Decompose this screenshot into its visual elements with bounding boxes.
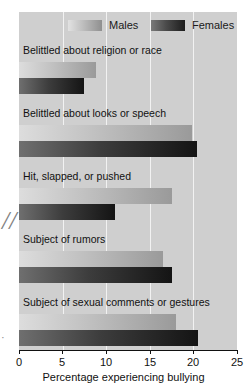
legend-swatch-males [68,20,102,31]
category-label: Belittled about religion or race [23,44,162,56]
bar-females[interactable] [19,141,197,157]
bar-males[interactable] [19,188,172,204]
legend-item-females[interactable]: Females [151,19,234,32]
x-ticklabel-0: 0 [16,356,22,368]
bar-females[interactable] [19,330,198,346]
legend: Males Females [19,12,237,38]
category-label: Hit, slapped, or pushed [23,170,131,182]
category-label: Subject of rumors [23,233,105,245]
x-axis-label: Percentage experiencing bullying [0,371,247,384]
bar-males[interactable] [19,314,176,330]
x-ticklabel-10: 10 [100,356,112,368]
margin-handwriting-mark-small: · [1,330,13,344]
category-label: Subject of sexual comments or gestures [23,296,210,308]
margin-handwriting-mark: // [2,198,18,244]
bar-females[interactable] [19,78,84,94]
legend-item-males[interactable]: Males [68,19,138,32]
legend-swatch-females [151,20,185,31]
bar-group-looks-or-speech: Belittled about looks or speech [19,107,237,169]
x-tick-10 [106,350,107,354]
bar-chart-figure: Males Females Belittled about religion o… [0,0,247,389]
x-tick-5 [62,350,63,354]
x-ticklabel-5: 5 [59,356,65,368]
bar-group-hit-slapped-pushed: Hit, slapped, or pushed [19,170,237,232]
bar-males[interactable] [19,125,192,141]
x-tick-25 [237,350,238,354]
bar-group-rumors: Subject of rumors [19,233,237,295]
plot-area: Males Females Belittled about religion o… [19,12,237,350]
plot-panel: Males Females Belittled about religion o… [19,12,237,350]
x-tick-20 [193,350,194,354]
bar-group-sexual-comments-or-gestures: Subject of sexual comments or gestures [19,296,237,350]
bar-group-religion-or-race: Belittled about religion or race [19,44,237,106]
x-tick-15 [150,350,151,354]
bar-males[interactable] [19,251,163,267]
x-ticklabel-20: 20 [187,356,199,368]
legend-label-females: Females [192,20,234,31]
bar-females[interactable] [19,267,172,283]
x-axis-line [19,350,237,351]
bar-males[interactable] [19,62,96,78]
x-ticklabel-15: 15 [144,356,156,368]
category-label: Belittled about looks or speech [23,107,166,119]
legend-label-males: Males [109,20,138,31]
bar-females[interactable] [19,204,115,220]
x-ticklabel-25: 25 [231,356,243,368]
x-tick-0 [19,350,20,354]
